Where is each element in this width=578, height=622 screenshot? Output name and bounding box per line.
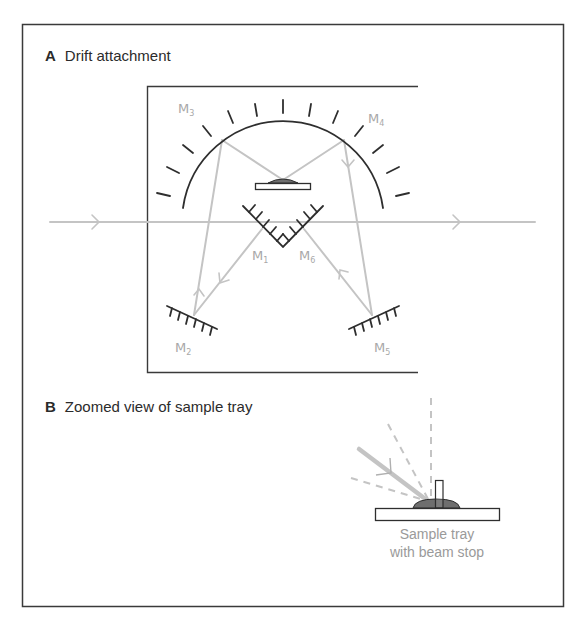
incoming-beam (359, 449, 428, 501)
panel-a-text: Drift attachment (65, 47, 171, 64)
tray (376, 509, 500, 521)
label-m1: M1 (252, 248, 268, 265)
panel-b-title: BZoomed view of sample tray (45, 398, 252, 415)
attachment-box (148, 87, 419, 373)
panel-a-letter: A (45, 47, 56, 64)
figure: M3 M4 M1 M6 M2 M5 ADrift attachment (0, 0, 578, 622)
label-m2: M2 (175, 340, 191, 357)
label-m3: M3 (178, 101, 194, 118)
v-mirror-m1-m6 (243, 205, 323, 247)
panel-a-title: ADrift attachment (45, 47, 171, 64)
tray-caption-line2: with beam stop (367, 543, 507, 561)
label-m5: M5 (374, 340, 390, 357)
flat-mirror-m2 (167, 306, 217, 335)
beam-path (50, 140, 535, 315)
scattered-rays (351, 398, 431, 500)
flat-mirror-m5 (349, 306, 399, 335)
label-m4: M4 (368, 111, 384, 128)
panel-b-letter: B (45, 398, 56, 415)
tray-caption-line1: Sample tray (367, 525, 507, 543)
panel-b-text: Zoomed view of sample tray (65, 398, 253, 415)
zoomed-tray-diagram (351, 398, 500, 521)
beam-stop (436, 481, 444, 509)
label-m6: M6 (299, 248, 315, 265)
sample-tray-a (256, 179, 311, 190)
tray-caption: Sample tray with beam stop (367, 525, 507, 561)
arrow-up-left-icon (194, 289, 204, 296)
